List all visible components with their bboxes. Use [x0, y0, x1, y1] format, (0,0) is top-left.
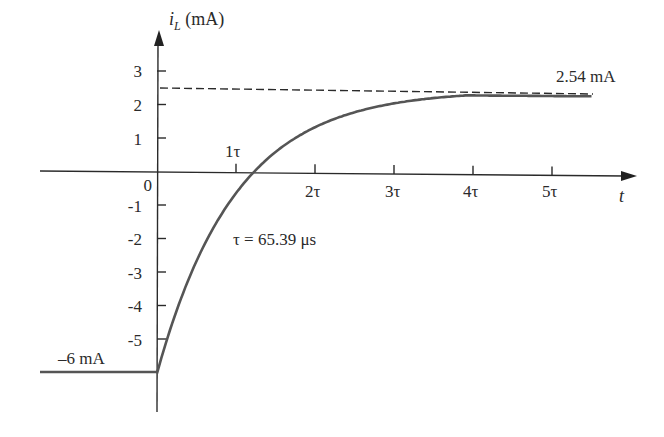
y-axis: [157, 42, 158, 412]
asymptote-line: [160, 88, 593, 94]
y-axis-label: iL (mA): [169, 10, 224, 32]
chart-figure: iL (mA) 3 2 1 0 -1 -2 -3 -4 -5 1τ 2τ 3τ …: [0, 0, 664, 437]
x-tick-label-3tau: 3τ: [385, 183, 400, 200]
y-tick-label-2: 2: [102, 97, 142, 114]
y-tick-label-neg5: -5: [102, 332, 142, 349]
y-label-subscript: L: [174, 19, 181, 33]
x-tick-label-2tau: 2τ: [305, 183, 320, 200]
x-axis: [40, 171, 625, 176]
current-curve: [157, 95, 592, 373]
y-tick-label-3: 3: [102, 63, 142, 80]
x-axis-arrow-icon: [621, 171, 637, 181]
initial-value-annotation: –6 mA: [58, 350, 105, 367]
y-tick-label-1: 1: [102, 131, 142, 148]
final-value-annotation: 2.54 mA: [556, 68, 616, 85]
x-tick-label-1tau: 1τ: [225, 143, 240, 160]
y-axis-arrow-icon: [154, 30, 164, 46]
x-tick-label-5tau: 5τ: [542, 183, 557, 200]
y-tick-label-neg3: -3: [102, 265, 142, 282]
y-label-unit: (mA): [185, 9, 224, 29]
y-tick-label-neg2: -2: [102, 231, 142, 248]
x-tick-label-4tau: 4τ: [463, 183, 478, 200]
origin-label: 0: [112, 177, 152, 194]
tau-annotation: τ = 65.39 μs: [233, 231, 316, 248]
plot-area: [0, 0, 664, 437]
y-tick-label-neg1: -1: [102, 198, 142, 215]
y-tick-label-neg4: -4: [102, 298, 142, 315]
x-axis-label: t: [619, 187, 624, 205]
